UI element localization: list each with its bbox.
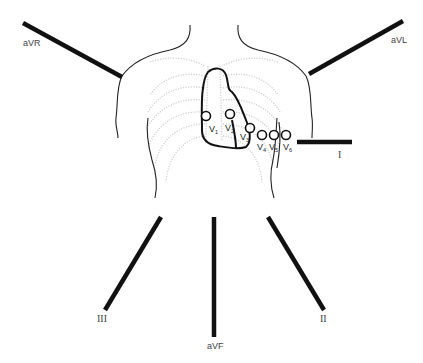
label-v1: V1 <box>209 124 218 135</box>
electrode-v6 <box>282 131 291 140</box>
label-i: I <box>338 149 341 160</box>
septum-line <box>232 120 236 148</box>
left-shoulder-outline <box>116 25 190 138</box>
lead-line-avr <box>23 23 122 77</box>
label-avl: aVL <box>391 35 407 45</box>
ribcage <box>146 58 282 182</box>
axillary-line <box>277 122 280 168</box>
ecg-diagram: aVR aVL I II III aVF V1 V2 V3 V4 V5 V6 <box>0 0 423 363</box>
lead-line-avl <box>309 21 403 74</box>
label-v5: V5 <box>269 142 278 153</box>
lead-line-iii <box>105 217 161 310</box>
right-shoulder-outline <box>238 25 313 138</box>
electrode-v4 <box>258 131 267 140</box>
label-v3: V3 <box>240 132 249 143</box>
torso-outline <box>116 25 313 198</box>
label-iii: III <box>97 313 107 324</box>
electrode-v1 <box>202 112 211 121</box>
label-avf: aVF <box>207 341 224 351</box>
electrode-v2 <box>226 110 235 119</box>
label-ii: II <box>320 313 327 324</box>
label-v6: V6 <box>283 142 292 153</box>
label-avr: aVR <box>23 38 41 48</box>
electrode-v5 <box>270 131 279 140</box>
lead-line-ii <box>268 217 324 310</box>
electrode-v3 <box>246 124 255 133</box>
left-flank-outline <box>147 118 156 198</box>
